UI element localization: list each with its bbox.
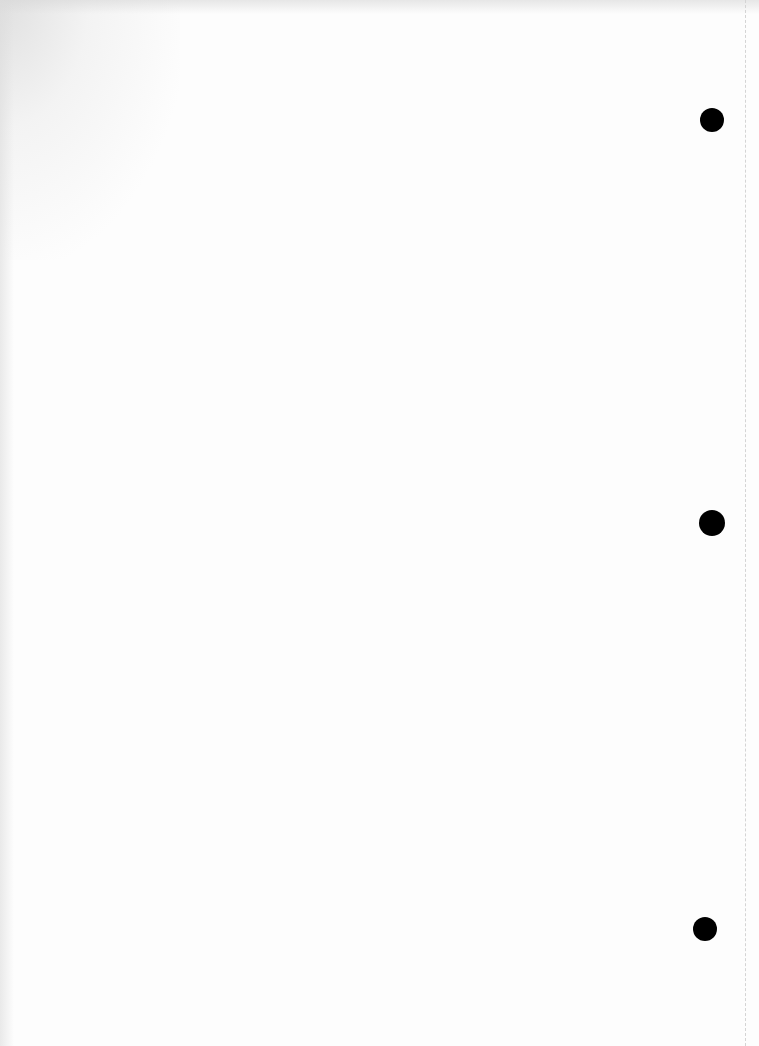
dashed-margin-line — [745, 0, 746, 1046]
scanned-page — [0, 0, 759, 1046]
scan-top-edge-shadow — [0, 0, 759, 14]
punch-hole-top — [700, 108, 724, 132]
punch-hole-middle — [699, 510, 725, 536]
punch-hole-bottom — [693, 917, 717, 941]
scan-left-edge-shadow — [0, 0, 14, 1046]
scan-corner-shadow — [0, 0, 180, 260]
